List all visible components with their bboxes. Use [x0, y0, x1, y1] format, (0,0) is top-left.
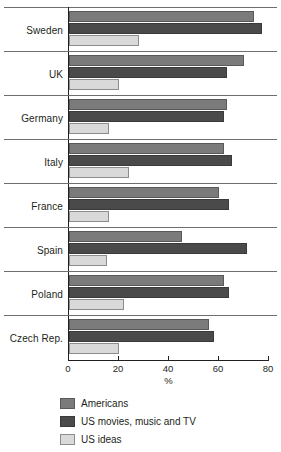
- plot-area: SwedenUKGermanyItalyFranceSpainPolandCze…: [0, 0, 281, 366]
- bar: [69, 23, 262, 34]
- category-groups: SwedenUKGermanyItalyFranceSpainPolandCze…: [0, 8, 281, 360]
- bar: [69, 167, 129, 178]
- legend-swatch: [60, 434, 75, 445]
- category-group: Germany: [0, 96, 281, 140]
- category-group: Czech Rep.: [0, 316, 281, 360]
- bar: [69, 155, 232, 166]
- bar-group: [69, 140, 269, 184]
- bar: [69, 111, 224, 122]
- bar: [69, 211, 109, 222]
- legend-label: US ideas: [81, 434, 122, 445]
- x-axis-tick: [68, 356, 69, 360]
- bar-group: [69, 228, 269, 272]
- category-label: UK: [0, 52, 63, 96]
- x-axis-tick-label: 0: [65, 363, 70, 374]
- legend-label: Americans: [81, 398, 128, 409]
- x-axis-tick: [168, 356, 169, 360]
- bar: [69, 243, 247, 254]
- category-label: Poland: [0, 272, 63, 316]
- legend: AmericansUS movies, music and TVUS ideas: [60, 394, 275, 448]
- bar-group: [69, 96, 269, 140]
- category-group: Sweden: [0, 8, 281, 52]
- bar-group: [69, 184, 269, 228]
- bar: [69, 35, 139, 46]
- bar: [69, 99, 227, 110]
- x-axis-tick: [118, 356, 119, 360]
- legend-swatch: [60, 398, 75, 409]
- x-axis-tick-label: 20: [113, 363, 124, 374]
- bar: [69, 143, 224, 154]
- category-label: France: [0, 184, 63, 228]
- bar: [69, 299, 124, 310]
- category-group: Italy: [0, 140, 281, 184]
- category-label: Spain: [0, 228, 63, 272]
- bar: [69, 55, 244, 66]
- bar: [69, 287, 229, 298]
- category-label: Czech Rep.: [0, 316, 63, 360]
- bar: [69, 231, 182, 242]
- x-axis-title: %: [68, 375, 269, 386]
- x-axis-tick-label: 80: [263, 363, 274, 374]
- bar-group: [69, 272, 269, 316]
- legend-item: US ideas: [60, 430, 275, 448]
- x-axis-tick: [218, 356, 219, 360]
- bar-group: [69, 52, 269, 96]
- x-axis-tick: [268, 356, 269, 360]
- legend-label: US movies, music and TV: [81, 416, 196, 427]
- category-group: France: [0, 184, 281, 228]
- bar-group: [69, 8, 269, 52]
- bar: [69, 199, 229, 210]
- legend-swatch: [60, 416, 75, 427]
- legend-item: US movies, music and TV: [60, 412, 275, 430]
- x-axis-tick-label: 60: [213, 363, 224, 374]
- bar: [69, 255, 107, 266]
- legend-item: Americans: [60, 394, 275, 412]
- category-label: Sweden: [0, 8, 63, 52]
- bar: [69, 319, 209, 330]
- bar: [69, 187, 219, 198]
- bar: [69, 67, 227, 78]
- x-axis-line: 020406080: [68, 360, 269, 361]
- category-group: Spain: [0, 228, 281, 272]
- category-label: Germany: [0, 96, 63, 140]
- bar: [69, 275, 224, 286]
- category-label: Italy: [0, 140, 63, 184]
- x-axis-tick-label: 40: [163, 363, 174, 374]
- category-group: Poland: [0, 272, 281, 316]
- bar-group: [69, 316, 269, 360]
- bar: [69, 79, 119, 90]
- bar: [69, 331, 214, 342]
- bar-chart: SwedenUKGermanyItalyFranceSpainPolandCze…: [0, 0, 281, 452]
- category-group: UK: [0, 52, 281, 96]
- bar: [69, 123, 109, 134]
- bar: [69, 11, 254, 22]
- bar: [69, 343, 119, 354]
